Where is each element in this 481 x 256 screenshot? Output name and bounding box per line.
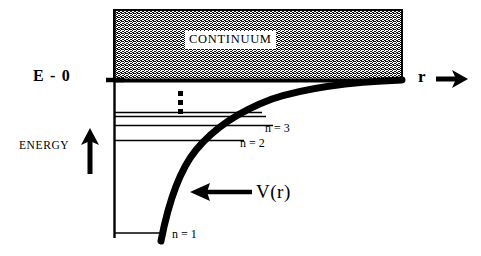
- bound-level-lines: [114, 113, 273, 234]
- potential-label: V(r): [256, 182, 291, 201]
- level-label-n2: n = 2: [240, 137, 265, 149]
- energy-arrow-up-icon: [81, 128, 99, 174]
- potential-pointer-arrow-left-icon: [190, 183, 252, 201]
- radial-axis-label: r: [418, 68, 426, 85]
- vertical-ellipsis-icon: [178, 91, 183, 114]
- potential-curve: [161, 80, 402, 241]
- level-label-n1: n = 1: [172, 228, 197, 240]
- level-label-n3: n = 3: [265, 122, 290, 134]
- energy-level-diagram: CONTINUUM E - 0 r ENERGY n = 3 n = 2 n =…: [0, 0, 481, 256]
- continuum-label: CONTINUUM: [185, 31, 276, 49]
- radial-arrow-right-icon: [436, 70, 468, 88]
- energy-zero-label: E - 0: [33, 68, 71, 84]
- energy-axis-label: ENERGY: [19, 140, 69, 152]
